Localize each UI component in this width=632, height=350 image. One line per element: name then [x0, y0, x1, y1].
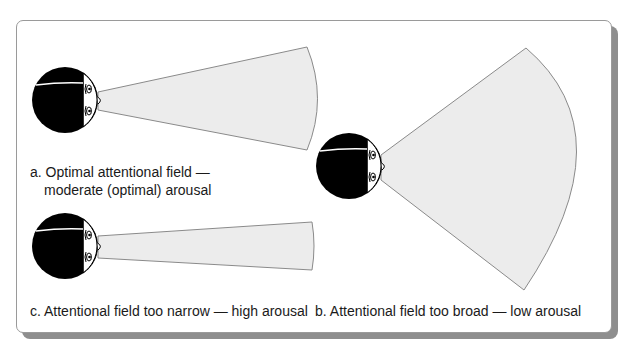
panel-a-optimal — [32, 47, 318, 150]
caption-a: a. Optimal attentional field — moderate … — [30, 163, 211, 199]
caption-a-line2: moderate (optimal) arousal — [30, 181, 211, 199]
head-icon — [32, 67, 100, 133]
head-icon — [32, 213, 100, 279]
head-icon — [316, 133, 384, 199]
panel-b-broad — [316, 48, 577, 290]
caption-b: b. Attentional field too broad — low aro… — [315, 302, 581, 320]
attention-cone-broad — [381, 48, 577, 290]
caption-a-line1: a. Optimal attentional field — — [30, 163, 211, 181]
attention-cone-narrow — [98, 222, 314, 270]
attention-cone-optimal — [98, 47, 318, 150]
panel-c-narrow — [32, 213, 314, 279]
caption-c: c. Attentional field too narrow — high a… — [30, 302, 308, 320]
